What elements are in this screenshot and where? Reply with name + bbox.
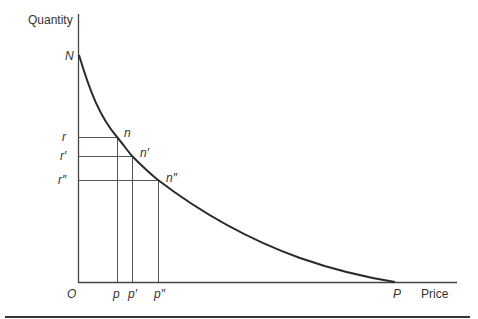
point-n: n [124, 126, 131, 140]
x-tick-p: p [112, 287, 120, 301]
y-tick-r: r [62, 130, 67, 144]
demand-curve-diagram: Quantity N r r′ r″ n n′ n″ O p p′ p″ P P… [0, 0, 478, 319]
y-tick-r-prime: r′ [60, 149, 67, 163]
point-n-double-prime: n″ [166, 171, 178, 185]
y-intercept-label: N [65, 49, 74, 63]
y-axis-label: Quantity [28, 13, 73, 27]
x-tick-p-double-prime: p″ [153, 287, 166, 301]
demand-curve [79, 55, 395, 282]
x-axis-label: Price [421, 287, 449, 301]
point-n-prime: n′ [140, 146, 150, 160]
origin-label: O [67, 287, 76, 301]
x-tick-p-prime: p′ [127, 287, 138, 301]
y-tick-r-double-prime: r″ [58, 173, 67, 187]
x-intercept-label: P [393, 287, 401, 301]
